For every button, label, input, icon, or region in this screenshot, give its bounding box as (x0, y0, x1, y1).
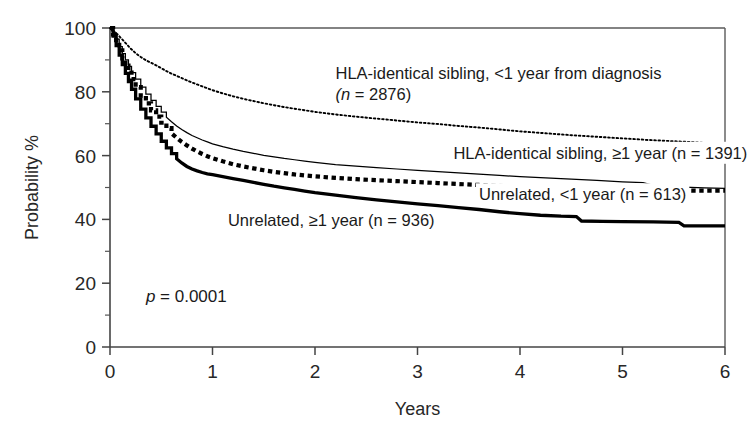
y-axis-title: Probability % (22, 135, 42, 240)
curve-unrelated-lt1year (110, 28, 725, 191)
label-unrelated-ge1year: Unrelated, ≥1 year (n = 936) (228, 211, 435, 229)
chart-svg: 020406080100 0123456 HLA-identical sibli… (0, 0, 755, 430)
x-tick-label-6: 6 (720, 361, 731, 382)
x-tick-label-4: 4 (515, 361, 526, 382)
x-axis-tick-labels: 0123456 (105, 361, 731, 382)
y-tick-label-80: 80 (75, 82, 96, 103)
p-value-number: = 0.0001 (155, 287, 226, 306)
label-unrelated-ge1year-text: Unrelated, ≥1 year (n (228, 211, 383, 229)
label-unrelated-lt1year-text: Unrelated, <1 year (n (479, 185, 634, 203)
label-unrelated-ge1year-n-value: = 936) (383, 211, 435, 229)
label-unrelated-lt1year: Unrelated, <1 year (n = 613) (479, 185, 686, 203)
y-tick-label-60: 60 (75, 146, 96, 167)
label-sibling-lt1year-n-value: = 2876) (350, 85, 411, 103)
y-tick-label-100: 100 (64, 18, 96, 39)
survival-curve-figure: 020406080100 0123456 HLA-identical sibli… (0, 0, 755, 430)
label-sibling-lt1year-n-italic: (n (336, 85, 351, 103)
x-axis-title: Years (395, 399, 440, 419)
label-unrelated-lt1year-n-value: = 613) (634, 185, 686, 203)
label-sibling-lt1year-line2: (n = 2876) (336, 85, 412, 103)
x-tick-label-0: 0 (105, 361, 116, 382)
x-axis-major-ticks (110, 347, 725, 355)
x-tick-label-2: 2 (310, 361, 321, 382)
x-tick-label-1: 1 (207, 361, 218, 382)
x-tick-label-5: 5 (617, 361, 628, 382)
y-tick-label-0: 0 (85, 337, 96, 358)
y-axis-tick-labels: 020406080100 (64, 18, 96, 358)
x-tick-label-3: 3 (412, 361, 423, 382)
label-sibling-lt1year-line1: HLA-identical sibling, <1 year from diag… (336, 64, 662, 82)
label-sibling-ge1year: HLA-identical sibling, ≥1 year (n = 1391… (453, 144, 747, 162)
p-value-symbol: p (145, 287, 155, 306)
y-tick-label-20: 20 (75, 273, 96, 294)
label-sibling-ge1year-text: HLA-identical sibling, ≥1 year (n (453, 144, 686, 162)
y-tick-label-40: 40 (75, 209, 96, 230)
curve-hla-identical-sibling-ge1year (110, 28, 725, 188)
label-sibling-ge1year-n-value: = 1391) (686, 144, 747, 162)
p-value-annotation: p = 0.0001 (145, 287, 227, 306)
curve-hla-identical-sibling-lt1year (110, 28, 725, 144)
